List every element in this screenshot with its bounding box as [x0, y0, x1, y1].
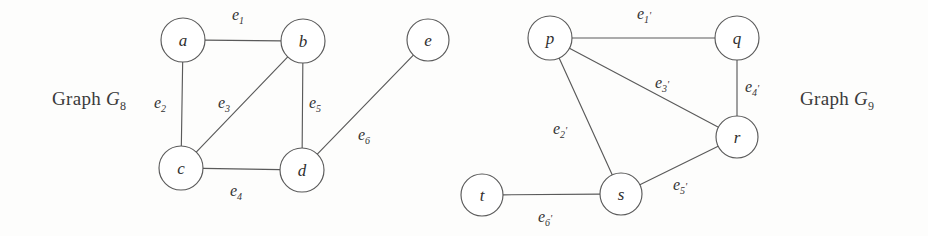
edge-label-g8-e2: e2 — [154, 94, 166, 114]
edge-g8-e2 — [181, 62, 182, 146]
node-label-g8-c: c — [177, 159, 185, 178]
edge-label-g9-e4p: e4' — [745, 78, 760, 98]
edge-g8-e1 — [205, 40, 281, 41]
edge-label-g9-e5p: e5' — [673, 176, 688, 196]
edge-g8-e5 — [302, 63, 303, 148]
edge-label-g8-e3: e3 — [218, 94, 230, 114]
edge-label-g8-e4: e4 — [230, 182, 242, 202]
node-label-g8-b: b — [299, 32, 308, 51]
caption-g9-subscript: 9 — [868, 99, 874, 113]
caption-g8-letter: G — [106, 88, 120, 109]
edges-layer — [181, 38, 737, 195]
nodes-layer: abcdepqrst — [159, 16, 759, 216]
node-label-g9-p: p — [545, 29, 555, 48]
node-label-g9-r: r — [734, 128, 741, 147]
caption-graph-g8: Graph G8 — [52, 88, 126, 114]
node-label-g8-d: d — [298, 161, 307, 180]
edge-label-g8-e1: e1 — [232, 6, 244, 26]
edge-label-g9-e1p: e1' — [637, 5, 652, 25]
node-label-g8-a: a — [179, 31, 188, 50]
edge-g8-e3 — [196, 57, 288, 152]
caption-g8-subscript: 8 — [120, 99, 126, 113]
edge-label-g9-e6p: e6' — [538, 208, 553, 228]
graph-figure-svg: abcdepqrst e1e2e3e4e5e6e1'e2'e3'e4'e5'e6… — [0, 0, 928, 236]
edge-label-g9-e2p: e2' — [553, 120, 568, 140]
node-label-g9-s: s — [618, 185, 625, 204]
edge-label-g8-e5: e5 — [309, 94, 321, 114]
caption-graph-g9: Graph G9 — [800, 88, 874, 114]
edge-label-g8-e6: e6 — [358, 126, 370, 146]
figure-canvas: abcdepqrst e1e2e3e4e5e6e1'e2'e3'e4'e5'e6… — [0, 0, 928, 236]
edge-g9-e3p — [569, 48, 718, 127]
edge-g8-e4 — [203, 168, 280, 169]
node-label-g8-e: e — [424, 31, 432, 50]
caption-g9-letter: G — [854, 88, 868, 109]
caption-g8-prefix: Graph — [52, 88, 106, 109]
edge-g9-e2p — [559, 58, 612, 175]
caption-g9-prefix: Graph — [800, 88, 854, 109]
edge-label-g9-e3p: e3' — [655, 74, 670, 94]
node-label-g9-q: q — [733, 29, 742, 48]
edge-g9-e6p — [503, 194, 600, 195]
